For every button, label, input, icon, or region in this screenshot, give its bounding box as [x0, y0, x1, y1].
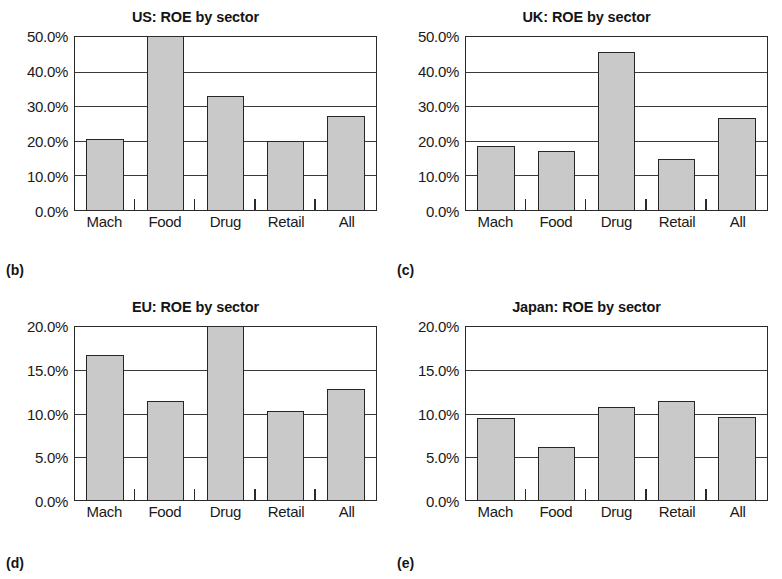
- y-tick-label-japan: 0.0%: [426, 493, 459, 510]
- chart-body-uk: 50.0%40.0%30.0%20.0%10.0%0.0%: [391, 36, 782, 211]
- x-tick-label-us-food: Food: [135, 213, 196, 230]
- bars-layer-japan: [466, 327, 767, 500]
- bar-slot: [135, 37, 195, 210]
- bar-us-retail[interactable]: [267, 141, 304, 210]
- y-tick-label-japan: 20.0%: [418, 318, 459, 335]
- y-tick-label-eu: 15.0%: [27, 361, 68, 378]
- bar-eu-retail[interactable]: [267, 411, 304, 500]
- plot-wrap-eu: [74, 326, 377, 501]
- bar-slot: [195, 37, 255, 210]
- y-axis-uk: 50.0%40.0%30.0%20.0%10.0%0.0%: [391, 36, 465, 211]
- bar-slot: [256, 327, 316, 500]
- plot-area-eu: [74, 326, 377, 501]
- y-tick-label-uk: 50.0%: [418, 28, 459, 45]
- bar-japan-retail[interactable]: [658, 401, 695, 500]
- plot-area-uk: [465, 36, 768, 211]
- x-tick-label-eu-drug: Drug: [195, 503, 256, 520]
- bar-slot: [316, 327, 376, 500]
- bar-uk-mach[interactable]: [477, 146, 514, 210]
- plot-area-us: [74, 36, 377, 211]
- x-tick-label-uk-food: Food: [526, 213, 587, 230]
- bar-slot: [647, 37, 707, 210]
- x-tick-label-uk-drug: Drug: [586, 213, 647, 230]
- chart-body-us: 50.0%40.0%30.0%20.0%10.0%0.0%: [0, 36, 391, 211]
- bar-eu-drug[interactable]: [207, 326, 244, 500]
- y-tick-label-us: 20.0%: [27, 133, 68, 150]
- y-axis-eu: 20.0%15.0%10.0%5.0%0.0%: [0, 326, 74, 501]
- bar-japan-food[interactable]: [538, 447, 575, 500]
- bar-uk-food[interactable]: [538, 151, 575, 211]
- y-tick-label-us: 30.0%: [27, 98, 68, 115]
- bar-slot: [256, 37, 316, 210]
- chart-panel-uk: UK: ROE by sector 50.0%40.0%30.0%20.0%10…: [391, 0, 782, 290]
- chart-title-us: US: ROE by sector: [0, 6, 391, 28]
- y-tick-label-uk: 30.0%: [418, 98, 459, 115]
- bar-us-food[interactable]: [147, 36, 184, 210]
- bar-eu-all[interactable]: [327, 389, 364, 500]
- bars-layer-us: [75, 37, 376, 210]
- x-tick-labels-us: MachFoodDrugRetailAll: [74, 213, 377, 230]
- bar-us-all[interactable]: [327, 116, 364, 210]
- bar-slot: [316, 37, 376, 210]
- x-tick-label-us-mach: Mach: [74, 213, 135, 230]
- bar-japan-all[interactable]: [718, 417, 755, 500]
- y-tick-label-japan: 5.0%: [426, 449, 459, 466]
- chart-body-japan: 20.0%15.0%10.0%5.0%0.0%: [391, 326, 782, 501]
- x-tick-label-japan-drug: Drug: [586, 503, 647, 520]
- y-tick-label-uk: 10.0%: [418, 168, 459, 185]
- bar-slot: [647, 327, 707, 500]
- x-tick-label-japan-all: All: [707, 503, 768, 520]
- y-tick-label-us: 40.0%: [27, 63, 68, 80]
- panel-tag-b: (b): [6, 262, 24, 278]
- y-tick-label-japan: 10.0%: [418, 405, 459, 422]
- bar-uk-drug[interactable]: [598, 52, 635, 210]
- x-tick-label-japan-food: Food: [526, 503, 587, 520]
- bar-eu-food[interactable]: [147, 401, 184, 500]
- bar-japan-mach[interactable]: [477, 418, 514, 500]
- bar-japan-drug[interactable]: [598, 407, 635, 500]
- chart-panel-us: US: ROE by sector 50.0%40.0%30.0%20.0%10…: [0, 0, 391, 290]
- bar-slot: [195, 327, 255, 500]
- x-tick-label-japan-mach: Mach: [465, 503, 526, 520]
- panel-tag-d: (d): [6, 555, 24, 571]
- chart-title-eu: EU: ROE by sector: [0, 296, 391, 318]
- plot-wrap-us: [74, 36, 377, 211]
- x-tick-labels-japan: MachFoodDrugRetailAll: [465, 503, 768, 520]
- bar-slot: [135, 327, 195, 500]
- y-tick-label-us: 0.0%: [35, 203, 68, 220]
- x-tick-label-eu-food: Food: [135, 503, 196, 520]
- bar-slot: [586, 327, 646, 500]
- x-tick-labels-uk: MachFoodDrugRetailAll: [465, 213, 768, 230]
- chart-panel-japan: Japan: ROE by sector 20.0%15.0%10.0%5.0%…: [391, 290, 782, 579]
- bar-slot: [707, 327, 767, 500]
- x-tick-label-eu-retail: Retail: [256, 503, 317, 520]
- y-tick-label-eu: 20.0%: [27, 318, 68, 335]
- plot-wrap-uk: [465, 36, 768, 211]
- bar-uk-retail[interactable]: [658, 159, 695, 210]
- plot-area-japan: [465, 326, 768, 501]
- y-tick-label-eu: 0.0%: [35, 493, 68, 510]
- bar-eu-mach[interactable]: [86, 355, 123, 500]
- y-tick-label-japan: 15.0%: [418, 361, 459, 378]
- panel-tag-e: (e): [397, 555, 414, 571]
- bar-slot: [586, 37, 646, 210]
- bar-uk-all[interactable]: [718, 118, 755, 210]
- bar-slot: [707, 37, 767, 210]
- chart-body-eu: 20.0%15.0%10.0%5.0%0.0%: [0, 326, 391, 501]
- x-tick-label-us-drug: Drug: [195, 213, 256, 230]
- x-tick-label-eu-mach: Mach: [74, 503, 135, 520]
- bars-layer-eu: [75, 327, 376, 500]
- x-tick-label-us-all: All: [316, 213, 377, 230]
- bar-us-drug[interactable]: [207, 96, 244, 210]
- y-tick-label-us: 10.0%: [27, 168, 68, 185]
- y-axis-us: 50.0%40.0%30.0%20.0%10.0%0.0%: [0, 36, 74, 211]
- x-tick-label-uk-mach: Mach: [465, 213, 526, 230]
- y-axis-japan: 20.0%15.0%10.0%5.0%0.0%: [391, 326, 465, 501]
- y-tick-label-uk: 20.0%: [418, 133, 459, 150]
- bar-us-mach[interactable]: [86, 139, 123, 210]
- x-tick-label-japan-retail: Retail: [647, 503, 708, 520]
- y-tick-label-us: 50.0%: [27, 28, 68, 45]
- chart-title-japan: Japan: ROE by sector: [391, 296, 782, 318]
- y-tick-label-eu: 10.0%: [27, 405, 68, 422]
- x-tick-label-uk-all: All: [707, 213, 768, 230]
